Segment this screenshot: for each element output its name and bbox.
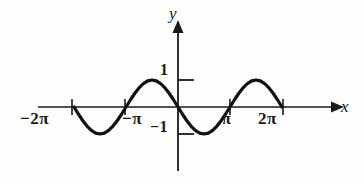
x-tick-label-pi: π	[222, 111, 231, 127]
y-axis-label: y	[169, 5, 177, 22]
y-tick-label-neg-one: −1	[150, 119, 168, 135]
x-axis-label: x	[341, 98, 349, 115]
x-tick-label-neg-2pi: −2π	[20, 110, 49, 127]
plot-canvas	[0, 0, 363, 185]
x-tick-label-2pi: 2π	[258, 110, 277, 127]
sine-wave-figure: y x −2π −π π 2π 1 −1	[0, 0, 363, 185]
y-tick-label-one: 1	[160, 62, 168, 78]
x-tick-label-neg-pi: −π	[122, 110, 142, 127]
